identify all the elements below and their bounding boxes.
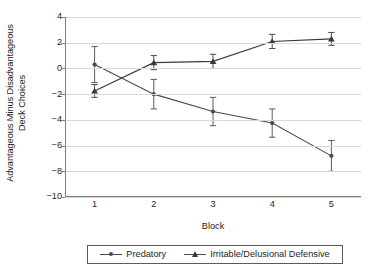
- gridline: [65, 94, 361, 95]
- x-tick-label: 5: [329, 200, 334, 209]
- y-tick-mark: [61, 43, 65, 44]
- y-axis-tick-labels: 420−2−4−6−8−10: [36, 0, 62, 205]
- y-axis-title-line2: Deck Choices: [17, 24, 29, 182]
- y-tick-mark: [61, 146, 65, 147]
- gridline: [65, 68, 361, 69]
- legend-label-predatory: Predatory: [126, 250, 166, 259]
- x-tick-label: 3: [210, 200, 215, 209]
- x-tick-label: 2: [151, 200, 156, 209]
- y-tick-label: −4: [38, 115, 62, 124]
- chart-figure: Advantageous Minus Disadvantageous Deck …: [0, 0, 377, 273]
- gridline: [65, 43, 361, 44]
- gridline: [65, 17, 361, 18]
- x-axis-title: Block: [65, 222, 361, 231]
- x-axis-tick-labels: 12345: [65, 200, 361, 214]
- y-tick-label: 2: [38, 38, 62, 47]
- gridline: [65, 171, 361, 172]
- legend-item-predatory[interactable]: Predatory: [100, 250, 166, 259]
- legend-item-irritable-delusional-defensive[interactable]: Irritable/Delusional Defensive: [184, 250, 330, 259]
- gridline: [65, 146, 361, 147]
- y-tick-label: −10: [38, 192, 62, 201]
- y-tick-label: −2: [38, 90, 62, 99]
- y-axis-title-line1: Advantageous Minus Disadvantageous: [5, 24, 15, 182]
- legend-marker-triangle-icon: [184, 250, 206, 259]
- y-tick-mark: [61, 94, 65, 95]
- y-tick-mark: [61, 171, 65, 172]
- gridline: [65, 197, 361, 198]
- y-tick-label: 4: [38, 12, 62, 21]
- y-tick-mark: [61, 120, 65, 121]
- x-tick-label: 1: [92, 200, 97, 209]
- chart-legend: Predatory Irritable/Delusional Defensive: [87, 245, 343, 264]
- y-tick-mark: [61, 17, 65, 18]
- y-tick-mark: [61, 68, 65, 69]
- y-tick-label: −6: [38, 141, 62, 150]
- x-axis-line: [65, 196, 361, 197]
- y-axis-line: [65, 17, 66, 197]
- series-graphics: [65, 17, 361, 197]
- plot-area: [65, 17, 361, 197]
- y-tick-label: −8: [38, 167, 62, 176]
- legend-label-irritable-delusional-defensive: Irritable/Delusional Defensive: [210, 250, 330, 259]
- legend-marker-dot-icon: [100, 250, 122, 259]
- y-tick-mark: [61, 197, 65, 198]
- gridline: [65, 120, 361, 121]
- y-tick-label: 0: [38, 64, 62, 73]
- y-axis-title: Advantageous Minus Disadvantageous Deck …: [0, 0, 34, 205]
- x-tick-label: 4: [270, 200, 275, 209]
